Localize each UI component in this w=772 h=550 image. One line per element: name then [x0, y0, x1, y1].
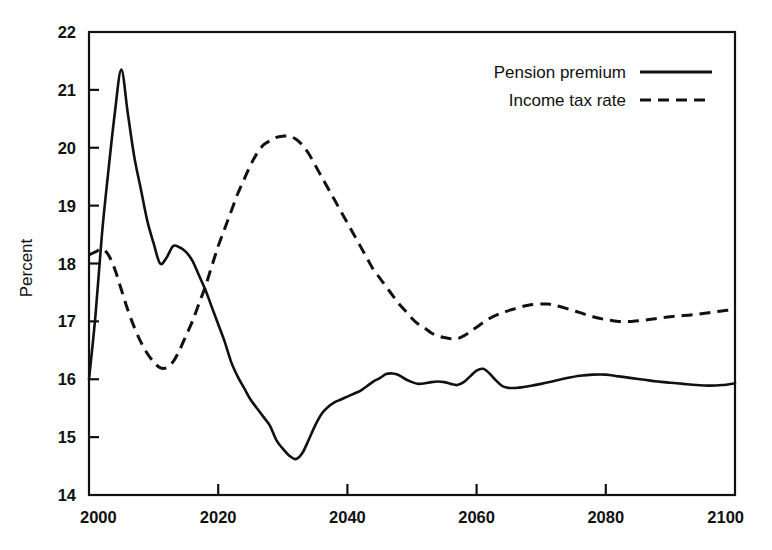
y-axis-ticks: [89, 90, 99, 437]
y-tick-label: 20: [58, 139, 76, 157]
x-tick-label: 2000: [80, 508, 117, 526]
plot-frame: [89, 32, 735, 495]
y-tick-label: 15: [58, 428, 76, 446]
x-axis-tick-labels: 200020202040206020802100: [80, 508, 744, 526]
chart-figure: 141516171819202122 200020202040206020802…: [0, 0, 772, 550]
y-tick-label: 14: [58, 486, 77, 504]
x-tick-label: 2020: [200, 508, 237, 526]
chart-canvas: 141516171819202122 200020202040206020802…: [0, 0, 772, 550]
x-tick-label: 2100: [707, 508, 744, 526]
y-tick-label: 18: [58, 255, 76, 273]
legend-label-pension-premium: Pension premium: [494, 63, 626, 82]
y-tick-label: 21: [58, 81, 76, 99]
legend-label-income-tax-rate: Income tax rate: [509, 91, 626, 110]
y-axis-title: Percent: [17, 238, 36, 297]
x-tick-label: 2080: [587, 508, 624, 526]
y-tick-label: 22: [58, 23, 76, 41]
y-tick-label: 16: [58, 370, 76, 388]
x-tick-label: 2040: [329, 508, 366, 526]
x-axis-ticks: [218, 484, 606, 495]
series-line-pension-premium: [89, 70, 735, 460]
y-axis-tick-labels: 141516171819202122: [58, 23, 77, 504]
y-tick-label: 17: [58, 312, 76, 330]
chart-legend: Pension premium Income tax rate: [494, 63, 712, 110]
x-tick-label: 2060: [458, 508, 495, 526]
y-tick-label: 19: [58, 197, 76, 215]
